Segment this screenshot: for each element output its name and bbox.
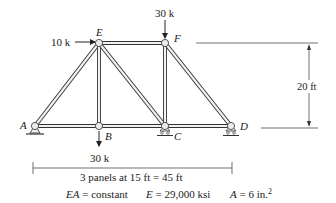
joint-b xyxy=(95,122,102,129)
svg-text:EA = constant: EA = constant xyxy=(65,188,128,200)
truss-members xyxy=(35,43,231,126)
joint-d xyxy=(227,122,234,129)
load-30k-at-f: 30 k xyxy=(155,7,175,38)
svg-text:10 k: 10 k xyxy=(51,36,71,48)
joint-label-a: A xyxy=(19,119,27,131)
joint-label-e: E xyxy=(95,26,103,38)
height-dimension: 20 ft xyxy=(196,43,322,128)
svg-text:E = 29,000 ksi: E = 29,000 ksi xyxy=(145,188,210,200)
svg-text:30 k: 30 k xyxy=(90,152,110,164)
joint-label-d: D xyxy=(239,120,248,132)
joint-label-c: C xyxy=(174,130,182,142)
svg-text:A = 6 in.2: A = 6 in.2 xyxy=(229,187,272,200)
joint-label-b: B xyxy=(105,130,112,142)
joint-f xyxy=(161,39,168,46)
svg-text:20 ft: 20 ft xyxy=(297,81,317,92)
joint-e xyxy=(95,39,102,46)
svg-text:3 panels at 15 ft = 45 ft: 3 panels at 15 ft = 45 ft xyxy=(80,171,182,183)
joint-a xyxy=(31,122,38,129)
load-10k-at-e: 10 k xyxy=(51,36,95,48)
ea-text: = constant xyxy=(79,188,127,200)
joint-c xyxy=(161,122,168,129)
joint-label-f: F xyxy=(173,32,181,44)
material-properties: EA = constant E = 29,000 ksi A = 6 in.2 xyxy=(65,187,272,200)
svg-text:30 k: 30 k xyxy=(155,7,175,19)
truss-diagram: A B C D E F 10 k 30 k 30 k 20 ft 3 panel… xyxy=(0,0,336,203)
span-dimension: 3 panels at 15 ft = 45 ft xyxy=(33,162,232,183)
